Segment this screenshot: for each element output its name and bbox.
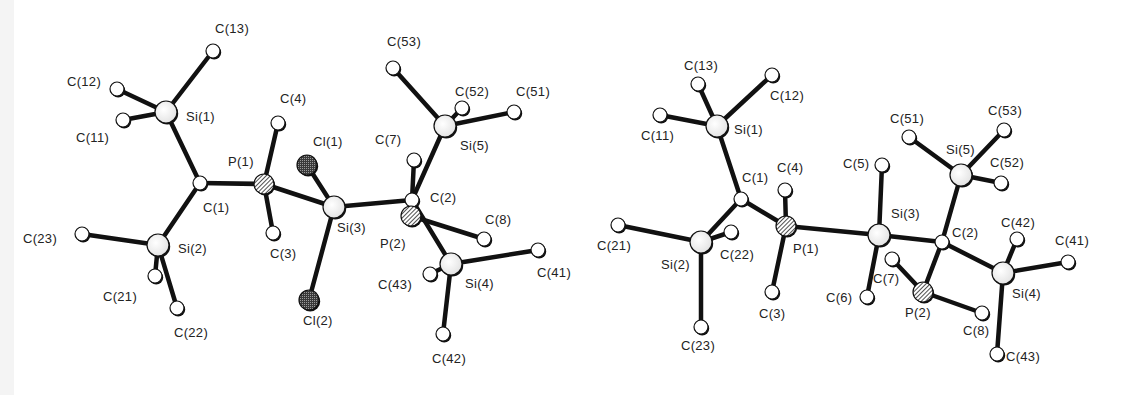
atom-c <box>902 130 917 146</box>
atom-c <box>407 153 422 169</box>
atom-label: C(21) <box>597 238 631 253</box>
atom-label: C(1) <box>742 170 768 185</box>
atom-c <box>266 226 281 242</box>
atom-c <box>653 108 668 124</box>
atom-label: C(23) <box>23 231 57 246</box>
bond <box>309 207 334 300</box>
atom-c <box>75 227 90 243</box>
atom-label: Si(3) <box>891 206 920 221</box>
molecule-right: C(13)C(12)C(11)Si(1)C(1)C(4)P(1)C(3)C(21… <box>597 58 1089 364</box>
atom-label: C(2) <box>952 225 978 240</box>
atom-label: Si(4) <box>465 276 494 291</box>
atom-label: P(1) <box>793 241 819 256</box>
atom-c <box>724 225 739 241</box>
atom-c <box>990 347 1005 363</box>
atom-cl <box>299 290 320 312</box>
atom-label: C(51) <box>890 111 924 126</box>
atom-si <box>950 164 973 188</box>
atom-label: C(23) <box>681 338 715 353</box>
atom-label: C(12) <box>67 74 101 89</box>
atom-label: C(8) <box>485 212 511 227</box>
atom-p <box>254 174 275 196</box>
atom-label: C(7) <box>873 271 899 286</box>
atom-c <box>1061 255 1076 271</box>
atom-label: C(52) <box>990 155 1024 170</box>
atom-label: C(3) <box>270 246 296 261</box>
atom-si <box>147 234 170 258</box>
atom-c <box>170 301 185 317</box>
atom-p <box>401 206 422 228</box>
atom-label: Cl(1) <box>313 134 343 149</box>
atom-label: Si(3) <box>337 220 366 235</box>
molecular-structures-figure: C(13)C(12)Si(1)C(11)C(4)P(1)C(1)C(3)Cl(1… <box>0 0 1144 395</box>
atom-label: C(8) <box>963 323 989 338</box>
atom-label: C(41) <box>1055 233 1089 248</box>
atom-label: C(51) <box>516 84 550 99</box>
atom-label: Si(5) <box>946 142 975 157</box>
bond <box>786 226 879 235</box>
atom-c <box>611 218 626 234</box>
atom-label: C(5) <box>843 156 869 171</box>
atom-label: P(1) <box>228 154 254 169</box>
atom-c <box>975 306 990 322</box>
atom-label: Si(2) <box>661 257 690 272</box>
atom-c <box>507 105 522 121</box>
atom-si <box>323 196 346 220</box>
atom-label: C(6) <box>826 290 852 305</box>
atom-c <box>778 183 793 199</box>
atom-label: C(21) <box>103 289 137 304</box>
atom-label: Cl(2) <box>303 313 333 328</box>
atom-label: C(22) <box>174 325 208 340</box>
atom-si <box>155 101 178 125</box>
atom-label: C(4) <box>777 160 803 175</box>
atom-c <box>423 267 438 283</box>
atom-label: C(41) <box>537 265 571 280</box>
atom-c <box>691 77 706 93</box>
atom-c <box>116 113 131 129</box>
atom-label: P(2) <box>380 236 406 251</box>
atom-label: C(22) <box>720 247 754 262</box>
atom-label: Si(1) <box>186 109 215 124</box>
atom-label: C(42) <box>432 351 466 366</box>
atom-label: C(43) <box>378 277 412 292</box>
atom-label: Si(5) <box>460 138 489 153</box>
atom-p <box>776 216 797 238</box>
atom-si <box>706 115 729 139</box>
atom-c <box>386 61 401 77</box>
atom-c <box>271 116 286 132</box>
atom-label: C(4) <box>280 91 306 106</box>
atom-c <box>110 82 125 98</box>
atom-c <box>765 285 780 301</box>
atom-c <box>436 327 451 343</box>
atom-label: C(2) <box>430 190 456 205</box>
atom-si <box>992 262 1015 286</box>
atom-c <box>148 269 163 285</box>
atom-label: Si(1) <box>734 122 763 137</box>
atom-label: C(13) <box>215 21 249 36</box>
atom-label: C(7) <box>375 132 401 147</box>
atom-si <box>440 253 463 277</box>
atom-c <box>477 232 492 248</box>
atom-si <box>434 115 457 139</box>
atom-label: C(42) <box>1001 215 1035 230</box>
atom-label: C(11) <box>641 128 674 143</box>
molecule-left: C(13)C(12)Si(1)C(11)C(4)P(1)C(1)C(3)Cl(1… <box>23 21 571 366</box>
atom-label: C(53) <box>387 34 421 49</box>
atom-label: C(1) <box>203 200 229 215</box>
atom-c <box>694 320 709 336</box>
atom-label: C(3) <box>759 306 785 321</box>
atom-si <box>690 231 713 255</box>
atom-cl <box>297 155 318 177</box>
atom-c <box>531 243 546 259</box>
atom-c <box>885 252 900 268</box>
atom-c <box>860 290 875 306</box>
atom-c <box>875 158 890 174</box>
bond <box>393 68 445 126</box>
atom-label: C(52) <box>455 84 489 99</box>
atom-label: Si(4) <box>1012 286 1041 301</box>
atom-p <box>913 282 934 304</box>
atom-label: C(53) <box>988 103 1022 118</box>
atom-c <box>994 176 1009 192</box>
atom-label: Si(2) <box>178 241 207 256</box>
atom-label: C(13) <box>684 58 718 73</box>
